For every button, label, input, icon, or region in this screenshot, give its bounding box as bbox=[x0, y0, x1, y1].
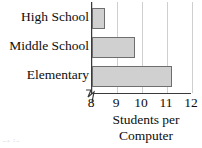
gridline-12 bbox=[192, 2, 193, 93]
page-text-remnant: at is bbox=[2, 137, 20, 142]
x-axis-title-line-1: Students per bbox=[94, 112, 198, 128]
bar-chart-figure: High School Middle School Elementary 8 9… bbox=[0, 0, 202, 148]
category-label-middle-school: Middle School bbox=[9, 39, 89, 53]
bar-high-school bbox=[92, 8, 105, 29]
x-tick-label-12: 12 bbox=[184, 96, 198, 110]
category-label-high-school: High School bbox=[21, 10, 89, 24]
x-tick-label-8: 8 bbox=[88, 96, 95, 110]
plot-area bbox=[91, 2, 191, 93]
x-axis-title: Students per Computer bbox=[94, 112, 198, 144]
x-tick-label-11: 11 bbox=[160, 96, 173, 110]
x-axis-title-line-2: Computer bbox=[94, 128, 198, 144]
x-tick-label-10: 10 bbox=[134, 96, 148, 110]
category-label-elementary: Elementary bbox=[27, 68, 89, 82]
x-tick-label-9: 9 bbox=[113, 96, 120, 110]
bar-elementary bbox=[92, 66, 172, 87]
bar-middle-school bbox=[92, 37, 135, 58]
